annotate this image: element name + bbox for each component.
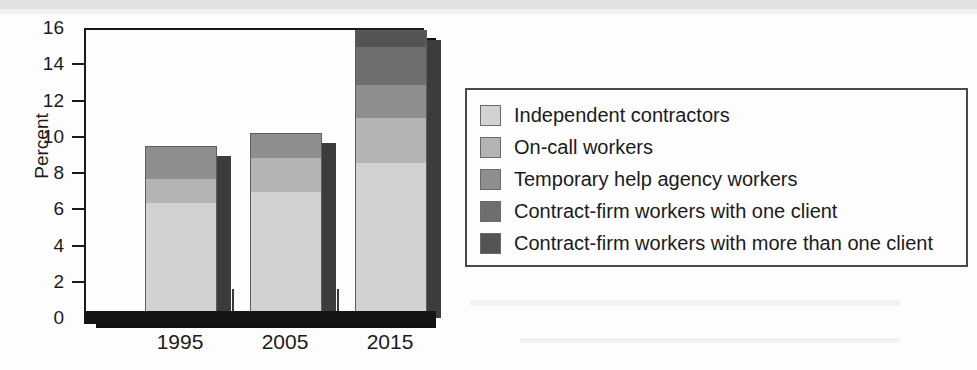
legend-swatch-icon xyxy=(480,105,501,126)
bar-segment xyxy=(356,118,426,163)
bar-segment xyxy=(356,47,426,85)
page-top-strip xyxy=(0,0,977,9)
bar-segment xyxy=(251,134,321,158)
bar-segment xyxy=(251,158,321,192)
x-axis-label-2015: 2015 xyxy=(330,330,450,354)
legend-item[interactable]: On-call workers xyxy=(480,131,966,163)
y-axis-label: 6 xyxy=(53,198,64,220)
legend-label: Temporary help agency workers xyxy=(514,168,797,191)
y-axis-label: 14 xyxy=(43,53,64,75)
y-axis-label: 16 xyxy=(43,17,64,39)
legend-label: Contract-firm workers with one client xyxy=(514,200,837,223)
legend-item[interactable]: Temporary help agency workers xyxy=(480,163,966,195)
y-axis-title: Percent xyxy=(31,86,53,206)
y-axis-label: 4 xyxy=(53,235,64,257)
bar-segment xyxy=(356,85,426,118)
legend-item[interactable]: Contract-firm workers with one client xyxy=(480,195,966,227)
y-axis-label: 8 xyxy=(53,162,64,184)
legend-swatch-icon xyxy=(480,169,501,190)
chart-figure: 1614121086420 Percent 199520052015 Indep… xyxy=(0,0,977,370)
x-axis-label-2005: 2005 xyxy=(225,330,345,354)
bar-stack-1995 xyxy=(145,146,217,320)
legend-item[interactable]: Independent contractors xyxy=(480,99,966,131)
x-axis-separator-tick xyxy=(232,289,234,311)
bar-segment xyxy=(146,147,216,180)
legend-label: On-call workers xyxy=(514,136,653,159)
chart-legend: Independent contractorsOn-call workersTe… xyxy=(465,88,968,267)
y-axis-label: 0 xyxy=(53,307,64,329)
legend-swatch-icon xyxy=(480,233,501,254)
legend-swatch-icon xyxy=(480,137,501,158)
legend-rows: Independent contractorsOn-call workersTe… xyxy=(480,99,966,259)
legend-item[interactable]: Contract-firm workers with more than one… xyxy=(480,227,966,259)
bar-segment xyxy=(356,31,426,47)
bar-segment xyxy=(251,192,321,319)
bar-segment xyxy=(146,203,216,319)
scan-ghost xyxy=(470,300,900,306)
legend-swatch-icon xyxy=(480,201,501,222)
bar-stack-2015 xyxy=(355,30,427,320)
x-axis-baseline xyxy=(84,311,436,324)
legend-label: Contract-firm workers with more than one… xyxy=(514,232,933,255)
y-axis-label: 2 xyxy=(53,271,64,293)
page-top-strip-soft xyxy=(0,9,977,14)
x-axis-label-1995: 1995 xyxy=(120,330,240,354)
bar-segment xyxy=(146,179,216,203)
bar-segment xyxy=(356,163,426,319)
scan-ghost xyxy=(520,338,900,343)
bar-side-face xyxy=(425,40,441,318)
bar-stack-2005 xyxy=(250,133,322,320)
bar-side-face xyxy=(320,143,336,318)
bar-side-face xyxy=(215,156,231,318)
legend-label: Independent contractors xyxy=(514,104,730,127)
x-axis-separator-tick xyxy=(337,289,339,311)
